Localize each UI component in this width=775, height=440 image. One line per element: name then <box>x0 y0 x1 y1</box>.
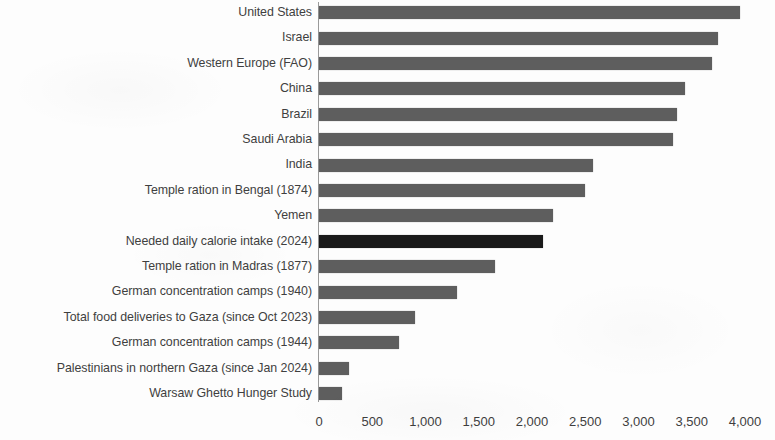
bar-row: Western Europe (FAO) <box>0 51 775 76</box>
bar <box>319 260 495 273</box>
x-axis-tick-label: 1,500 <box>462 414 495 429</box>
bar-row: German concentration camps (1940) <box>0 279 775 304</box>
category-label: German concentration camps (1944) <box>112 330 312 355</box>
category-label: Temple ration in Madras (1877) <box>142 254 312 279</box>
category-label: Palestinians in northern Gaza (since Jan… <box>57 356 312 381</box>
bar <box>319 159 593 172</box>
bar <box>319 311 415 324</box>
bar <box>319 286 457 299</box>
category-label: German concentration camps (1940) <box>112 279 312 304</box>
bar <box>319 209 553 222</box>
category-label: Western Europe (FAO) <box>187 51 312 76</box>
x-axis-tick-label: 1,000 <box>409 414 442 429</box>
category-label: Needed daily calorie intake (2024) <box>126 229 312 254</box>
bar-row: Needed daily calorie intake (2024) <box>0 229 775 254</box>
bar-row: Yemen <box>0 203 775 228</box>
x-axis-tick-label: 2,500 <box>569 414 602 429</box>
bar-row: Warsaw Ghetto Hunger Study <box>0 381 775 406</box>
category-label: Israel <box>282 25 312 50</box>
bar-row: India <box>0 152 775 177</box>
category-label: Warsaw Ghetto Hunger Study <box>149 381 312 406</box>
category-label: United States <box>238 0 312 25</box>
bar-row: Palestinians in northern Gaza (since Jan… <box>0 356 775 381</box>
category-label: Total food deliveries to Gaza (since Oct… <box>64 305 312 330</box>
bar-highlighted <box>319 235 543 248</box>
bar-row: Temple ration in Madras (1877) <box>0 254 775 279</box>
x-axis-tick-label: 3,000 <box>622 414 655 429</box>
category-label: Temple ration in Bengal (1874) <box>145 178 312 203</box>
bar <box>319 336 399 349</box>
bar <box>319 184 585 197</box>
x-axis-tick-label: 4,000 <box>729 414 762 429</box>
bar <box>319 32 718 45</box>
category-label: Brazil <box>281 102 312 127</box>
bar <box>319 387 342 400</box>
x-axis-tick-label: 2,000 <box>516 414 549 429</box>
bar <box>319 57 712 70</box>
bar-row: China <box>0 76 775 101</box>
bar <box>319 82 685 95</box>
category-label: Saudi Arabia <box>242 127 312 152</box>
category-label: China <box>280 76 312 101</box>
plot-area: United StatesIsraelWestern Europe (FAO)C… <box>0 0 775 440</box>
bar <box>319 108 677 121</box>
bar-chart: United StatesIsraelWestern Europe (FAO)C… <box>0 0 775 440</box>
bar-row: German concentration camps (1944) <box>0 330 775 355</box>
bar <box>319 6 740 19</box>
x-axis-tick-label: 500 <box>361 414 383 429</box>
bar-row: Brazil <box>0 102 775 127</box>
x-axis-tick-label: 3,500 <box>675 414 708 429</box>
bar-row: Saudi Arabia <box>0 127 775 152</box>
bar-row: Israel <box>0 25 775 50</box>
bar-row: United States <box>0 0 775 25</box>
bar <box>319 133 673 146</box>
bar-row: Temple ration in Bengal (1874) <box>0 178 775 203</box>
bar-row: Total food deliveries to Gaza (since Oct… <box>0 305 775 330</box>
category-label: Yemen <box>274 203 312 228</box>
x-axis: 05001,0001,5002,0002,5003,0003,5004,000 <box>0 404 775 440</box>
bar <box>319 362 349 375</box>
category-label: India <box>285 152 312 177</box>
x-axis-tick-label: 0 <box>315 414 322 429</box>
